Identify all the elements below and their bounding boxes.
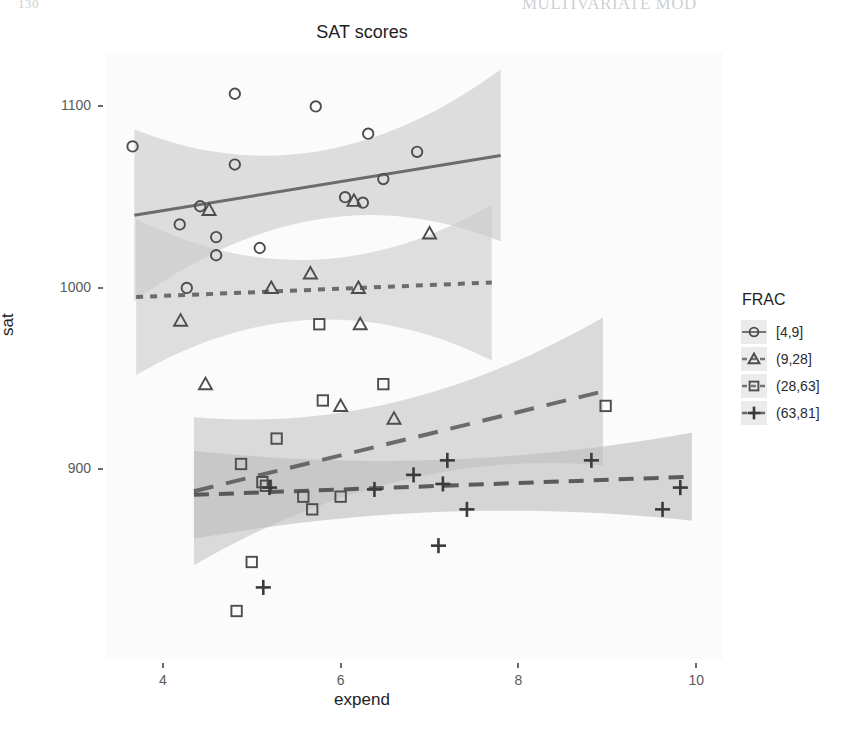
data-point bbox=[256, 580, 271, 595]
data-point bbox=[363, 128, 373, 138]
page-number: 130 bbox=[18, 0, 39, 12]
x-axis-tick-label: 4 bbox=[143, 672, 183, 688]
legend-item-label: (9,28] bbox=[776, 351, 812, 367]
y-axis-tick-mark bbox=[98, 105, 103, 107]
legend-item-square[interactable]: (28,63] bbox=[741, 372, 854, 399]
square-key-icon bbox=[741, 374, 767, 398]
y-axis-tick-mark bbox=[98, 468, 103, 470]
data-point bbox=[230, 89, 240, 99]
y-axis-tick-label: 900 bbox=[33, 460, 91, 476]
y-axis-label: sat bbox=[0, 313, 18, 336]
data-point bbox=[318, 395, 328, 405]
data-point bbox=[311, 101, 321, 111]
data-point bbox=[314, 319, 324, 329]
data-point bbox=[255, 243, 265, 253]
running-head: MULTIVARIATE MOD bbox=[522, 0, 697, 14]
x-axis-tick-mark bbox=[695, 663, 697, 668]
data-point bbox=[378, 379, 388, 389]
figure-container: 130 MULTIVARIATE MOD SAT scores sat expe… bbox=[0, 0, 854, 749]
x-axis-tick-mark bbox=[517, 663, 519, 668]
data-point bbox=[247, 557, 257, 567]
legend-item-label: [4,9] bbox=[776, 324, 803, 340]
plus-key-icon bbox=[741, 401, 767, 425]
triangle-key-icon bbox=[741, 347, 767, 371]
x-axis-tick-label: 10 bbox=[676, 672, 716, 688]
y-axis-tick-mark bbox=[98, 287, 103, 289]
y-axis-tick-label: 1100 bbox=[33, 97, 91, 113]
data-point bbox=[231, 606, 241, 616]
legend-item-label: (63,81] bbox=[776, 405, 820, 421]
legend-title: FRAC bbox=[742, 291, 854, 309]
y-axis-tick-label: 1000 bbox=[33, 279, 91, 295]
data-point bbox=[431, 538, 446, 553]
plot-panel bbox=[105, 52, 723, 660]
data-point bbox=[334, 399, 347, 411]
legend-entries: [4,9](9,28](28,63](63,81] bbox=[741, 318, 854, 426]
plot-canvas bbox=[105, 52, 723, 660]
circle-key-icon bbox=[741, 320, 767, 344]
legend-item-label: (28,63] bbox=[776, 378, 820, 394]
legend-item-plus[interactable]: (63,81] bbox=[741, 399, 854, 426]
legend-item-triangle[interactable]: (9,28] bbox=[741, 345, 854, 372]
data-point bbox=[199, 378, 212, 390]
legend: FRAC [4,9](9,28](28,63](63,81] bbox=[741, 291, 854, 426]
x-axis-tick-mark bbox=[340, 663, 342, 668]
legend-item-circle[interactable]: [4,9] bbox=[741, 318, 854, 345]
x-axis-tick-mark bbox=[162, 663, 164, 668]
x-axis-tick-label: 6 bbox=[321, 672, 361, 688]
x-axis-tick-label: 8 bbox=[498, 672, 538, 688]
x-axis-label: expend bbox=[0, 690, 724, 710]
chart-title: SAT scores bbox=[0, 22, 724, 43]
